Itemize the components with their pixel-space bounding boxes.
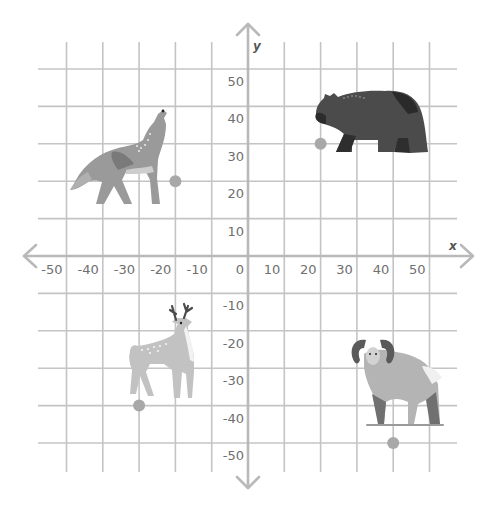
y-tick-label: -40: [223, 411, 244, 426]
coordinate-plane: x y -50-40-30-20-1001020304050 504030201…: [0, 0, 497, 506]
x-tick-label: 10: [264, 262, 281, 277]
y-tick-label: -50: [223, 448, 244, 463]
point-bear: [315, 138, 327, 150]
y-tick-label: 30: [227, 149, 244, 164]
x-tick-label: -30: [114, 262, 135, 277]
wolf-icon: [70, 110, 167, 204]
x-tick-label: -50: [41, 262, 62, 277]
x-tick-label: 40: [373, 262, 390, 277]
y-tick-label: 10: [227, 224, 244, 239]
x-axis-label: x: [448, 239, 458, 253]
y-axis-label: y: [253, 39, 262, 53]
point-ram: [387, 437, 399, 449]
y-tick-label: 40: [227, 111, 244, 126]
y-tick-label: -10: [223, 298, 244, 313]
x-tick-labels: -50-40-30-20-1001020304050: [41, 262, 425, 277]
x-tick-label: 30: [336, 262, 353, 277]
y-tick-label: 20: [227, 186, 244, 201]
x-tick-label: 20: [300, 262, 317, 277]
y-tick-label: -30: [223, 373, 244, 388]
x-tick-label: -40: [78, 262, 99, 277]
y-tick-label: -20: [223, 336, 244, 351]
point-wolf: [169, 175, 181, 187]
x-tick-label: -20: [150, 262, 171, 277]
x-tick-label: -10: [186, 262, 207, 277]
x-tick-label: 50: [409, 262, 426, 277]
y-tick-label: 50: [227, 74, 244, 89]
x-tick-label: 0: [236, 262, 244, 277]
point-deer: [133, 400, 145, 412]
